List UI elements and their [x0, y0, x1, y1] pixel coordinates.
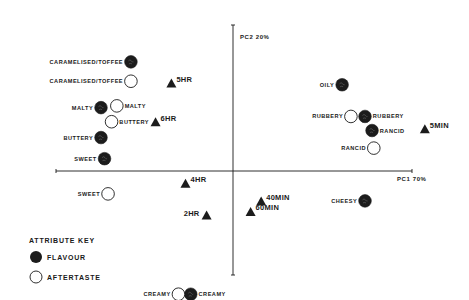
point-flavour-oily: OILY — [320, 78, 349, 91]
open-circle-icon — [368, 142, 381, 155]
triangle-icon — [202, 211, 212, 220]
point-aftertaste-rancid: RANCID — [341, 142, 380, 155]
point-label: 60MIN — [256, 203, 280, 212]
point-label: MALTY — [72, 105, 93, 111]
filled-circle-icon — [184, 288, 197, 300]
point-samples-5min: 5MIN — [420, 121, 449, 133]
point-label: CREAMY — [143, 291, 170, 297]
point-label: BUTTERY — [119, 119, 149, 125]
point-label: CREAMY — [199, 291, 226, 297]
point-samples-2hr: 2HR — [184, 209, 212, 220]
point-aftertaste-malty: MALTY — [111, 100, 146, 113]
triangle-icon — [166, 79, 176, 88]
filled-circle-icon — [359, 110, 372, 123]
point-aftertaste-buttery: BUTTERY — [105, 115, 149, 128]
triangle-icon — [246, 207, 256, 216]
point-label: SWEET — [74, 156, 96, 162]
point-label: 4HR — [190, 175, 206, 184]
point-label: BUTTERY — [63, 135, 93, 141]
open-circle-icon — [125, 75, 138, 88]
point-aftertaste-rubbery: RUBBERY — [312, 110, 357, 123]
data-points: CARAMELISED/TOFFEEMALTYBUTTERYSWEETOILYR… — [50, 56, 449, 300]
legend-title: ATTRIBUTE KEY — [29, 237, 95, 244]
filled-circle-icon — [98, 152, 111, 165]
filled-circle-icon — [336, 78, 349, 91]
point-samples-4hr: 4HR — [180, 175, 206, 188]
filled-circle-icon — [95, 101, 108, 114]
point-label: 40MIN — [266, 193, 290, 202]
open-circle-icon — [102, 188, 115, 201]
point-label: RUBBERY — [312, 113, 343, 119]
legend-entry-flavour: FLAVOUR — [30, 251, 86, 263]
point-label: SWEET — [78, 191, 100, 197]
point-aftertaste-creamy: CREAMY — [143, 288, 184, 300]
open-circle-icon — [345, 110, 358, 123]
legend-entry-aftertaste: AFTERTASTE — [30, 271, 101, 283]
filled-circle-icon — [366, 124, 379, 137]
point-samples-6hr: 6HR — [151, 114, 177, 127]
point-aftertaste-sweet: SWEET — [78, 188, 114, 201]
point-flavour-sweet: SWEET — [74, 152, 110, 165]
point-label: MALTY — [125, 103, 146, 109]
point-flavour-rancid: RANCID — [366, 124, 405, 137]
point-flavour-caramelised-toffee: CARAMELISED/TOFFEE — [50, 56, 138, 69]
pca-biplot: PC2 20% PC1 70% CARAMELISED/TOFFEEMALTYB… — [0, 0, 469, 300]
pc1-axis-label: PC1 70% — [397, 176, 427, 182]
point-label: RANCID — [341, 145, 366, 151]
filled-circle-icon — [30, 251, 42, 263]
point-flavour-malty: MALTY — [72, 101, 107, 114]
pc2-axis-label: PC2 20% — [240, 34, 270, 40]
filled-circle-icon — [95, 131, 108, 144]
point-samples-5hr: 5HR — [166, 75, 192, 88]
legend-label-aftertaste: AFTERTASTE — [47, 274, 101, 281]
open-circle-icon — [111, 100, 124, 113]
filled-circle-icon — [359, 195, 372, 208]
triangle-icon — [151, 117, 161, 126]
point-flavour-creamy: CREAMY — [184, 288, 225, 300]
point-flavour-cheesy: CHEESY — [331, 195, 371, 208]
point-label: CARAMELISED/TOFFEE — [50, 59, 124, 65]
point-samples-60min: 60MIN — [246, 203, 280, 216]
point-label: RUBBERY — [373, 113, 404, 119]
point-label: 5MIN — [430, 121, 449, 130]
point-label: 2HR — [184, 209, 200, 218]
open-circle-icon — [105, 115, 118, 128]
point-flavour-rubbery: RUBBERY — [359, 110, 404, 123]
triangle-icon — [420, 124, 430, 133]
point-label: 5HR — [176, 75, 192, 84]
point-flavour-buttery: BUTTERY — [63, 131, 107, 144]
triangle-icon — [180, 179, 190, 188]
open-circle-icon — [172, 288, 185, 300]
open-circle-icon — [30, 271, 42, 283]
legend-label-flavour: FLAVOUR — [47, 254, 86, 261]
legend: ATTRIBUTE KEY FLAVOUR AFTERTASTE — [29, 237, 101, 283]
point-label: OILY — [320, 82, 335, 88]
point-label: CARAMELISED/TOFFEE — [50, 78, 124, 84]
point-label: RANCID — [380, 128, 405, 134]
point-label: 6HR — [161, 114, 177, 123]
point-label: CHEESY — [331, 198, 357, 204]
filled-circle-icon — [125, 56, 138, 69]
point-aftertaste-caramelised-toffee: CARAMELISED/TOFFEE — [50, 75, 138, 88]
